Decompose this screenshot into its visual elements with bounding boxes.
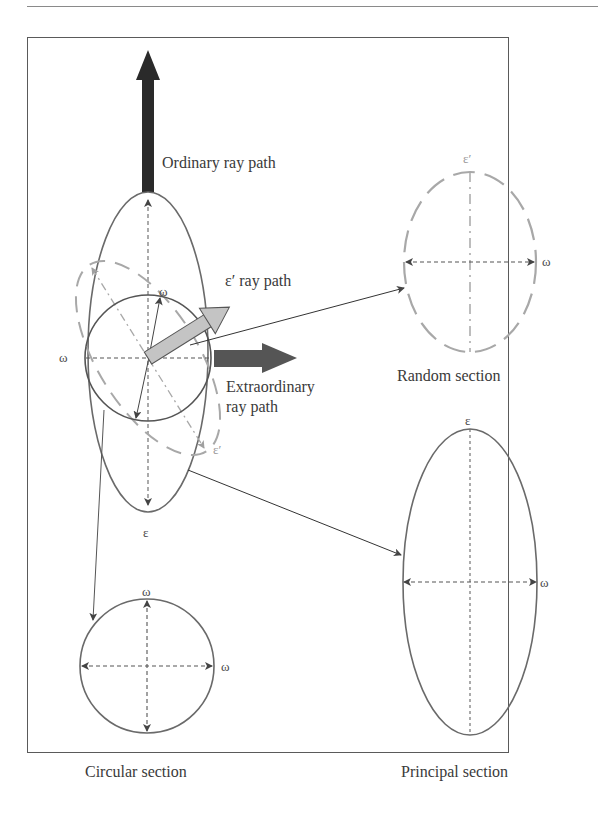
omega-symbol-circular-top: ω bbox=[142, 585, 151, 598]
epsilon-symbol-principal-section: ε bbox=[465, 414, 470, 427]
omega-symbol-principal-section: ω bbox=[540, 576, 549, 589]
extraordinary-ray-label-line1: Extraordinary bbox=[226, 379, 315, 395]
ordinary-ray-arrow-icon bbox=[136, 50, 160, 192]
omega-symbol-random-section: ω bbox=[542, 255, 551, 268]
eprime-ray-label: ε′ ray path bbox=[225, 273, 291, 289]
circular-section-label: Circular section bbox=[85, 764, 187, 780]
extraordinary-ray-label-line2: ray path bbox=[226, 399, 278, 415]
eprime-symbol-random-section: ε′ bbox=[463, 152, 471, 165]
ordinary-ray-label: Ordinary ray path bbox=[162, 155, 276, 171]
indicatrix-diagram bbox=[0, 0, 598, 826]
omega-symbol-circle-top: ω bbox=[159, 285, 168, 298]
epsilon-symbol-large-ellipse: ε bbox=[143, 526, 148, 539]
eprime-symbol-tilted: ε′ bbox=[213, 443, 221, 456]
random-section-label: Random section bbox=[397, 368, 501, 384]
omega-symbol-circular-right: ω bbox=[221, 660, 230, 673]
principal-section-label: Principal section bbox=[401, 764, 508, 780]
extraordinary-ray-arrow-icon bbox=[214, 343, 297, 373]
omega-symbol-left: ω bbox=[59, 351, 68, 364]
